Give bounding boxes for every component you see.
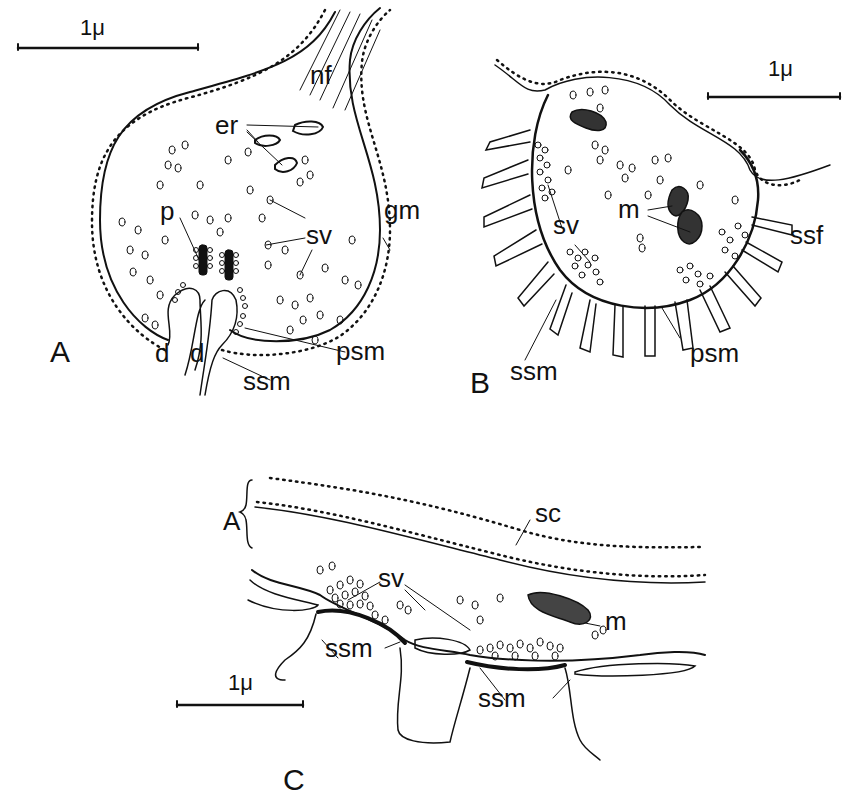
panel-a-scale-label: 1μ bbox=[80, 17, 105, 39]
panel-a-er-2 bbox=[255, 136, 280, 146]
panel-c-label: C bbox=[283, 765, 305, 795]
label-glial-membrane: gm bbox=[384, 197, 420, 223]
panel-a-dendrite-2 bbox=[200, 291, 237, 395]
label-presynaptic-membrane-a: psm bbox=[336, 338, 385, 364]
panel-b-scale-label: 1μ bbox=[768, 58, 793, 80]
label-mitochondrion-c: m bbox=[605, 608, 627, 634]
label-schwann-cell: sc bbox=[535, 500, 561, 526]
label-mitochondria-b: m bbox=[618, 196, 640, 222]
label-subsynaptic-membrane-c2: ssm bbox=[478, 685, 526, 711]
panel-c-bracket bbox=[240, 480, 252, 548]
panel-b-cell-body bbox=[532, 95, 758, 308]
label-subsynaptic-membrane-c1: ssm bbox=[325, 635, 373, 661]
label-dendrite-1: d bbox=[155, 340, 169, 366]
panel-b-drawing bbox=[482, 60, 840, 360]
label-dendrite-2: d bbox=[190, 340, 204, 366]
label-subsynaptic-membrane-a: ssm bbox=[243, 368, 291, 394]
label-nerve-filaments: nf bbox=[310, 62, 332, 88]
panel-c-schwann-cell-inner bbox=[257, 502, 705, 576]
label-synaptic-vesicles-c: sv bbox=[378, 565, 404, 591]
label-synaptic-vesicles-a: sv bbox=[306, 222, 332, 248]
label-endoplasmic-reticulum: er bbox=[215, 112, 238, 138]
panel-c-axon-membrane bbox=[252, 570, 705, 661]
label-subsynaptic-membrane-b: ssm bbox=[510, 358, 558, 384]
panel-a-drawing bbox=[18, 8, 390, 395]
panel-b-label: B bbox=[470, 368, 490, 398]
label-presynaptic-membrane-b: psm bbox=[690, 340, 739, 366]
label-subsynaptic-folds: ssf bbox=[790, 222, 823, 248]
figure-canvas: 1μ nf er p sv gm A d d ssm psm 1μ sv m s… bbox=[0, 0, 858, 811]
panel-a-glial-membrane bbox=[92, 10, 390, 355]
panel-b-glial-membrane bbox=[497, 60, 800, 185]
micrograph-line-drawing bbox=[0, 0, 858, 811]
panel-a-cell-outline bbox=[100, 8, 380, 341]
panel-c-schwann-cell-outer bbox=[270, 478, 700, 547]
panel-c-postsynaptic-membrane-2 bbox=[467, 662, 565, 669]
panel-a-label: A bbox=[50, 337, 70, 367]
label-axon-bracket: A bbox=[223, 508, 240, 534]
label-synaptic-vesicles-b: sv bbox=[553, 212, 579, 238]
panel-a-er-3 bbox=[275, 158, 297, 172]
panel-c-scale-label: 1μ bbox=[228, 672, 253, 694]
panel-a-er-1 bbox=[293, 121, 323, 134]
panel-c-mitochondrion bbox=[528, 593, 591, 625]
label-presynaptic-projection: p bbox=[160, 198, 174, 224]
